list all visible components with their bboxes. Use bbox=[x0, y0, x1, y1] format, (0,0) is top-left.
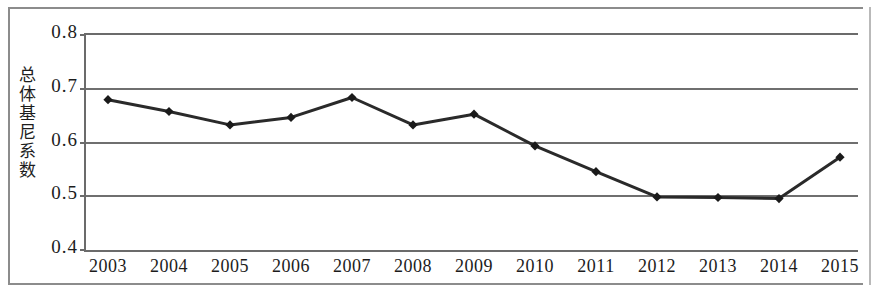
y-axis-tick-label: 0.8 bbox=[34, 21, 78, 43]
x-axis-tick-label: 2010 bbox=[516, 256, 554, 277]
chart-figure: 总体基尼系数 0.80.70.60.50.4 20032004200520062… bbox=[0, 0, 871, 297]
data-point-marker bbox=[103, 95, 112, 104]
y-axis-tick-labels: 0.80.70.60.50.4 bbox=[34, 33, 78, 248]
x-axis-tick-labels: 2003200420052006200720082009201020112012… bbox=[84, 256, 856, 286]
x-axis-tick-label: 2005 bbox=[211, 256, 249, 277]
x-axis-tick-label: 2008 bbox=[394, 256, 432, 277]
data-point-marker bbox=[225, 120, 234, 129]
x-axis-tick-label: 2012 bbox=[638, 256, 676, 277]
data-point-marker bbox=[713, 193, 722, 202]
y-axis-tick-mark bbox=[80, 249, 86, 251]
x-axis-tick-label: 2011 bbox=[577, 256, 614, 277]
y-axis-tick-label: 0.5 bbox=[34, 182, 78, 204]
x-axis-tick-label: 2003 bbox=[89, 256, 127, 277]
x-axis-tick-label: 2009 bbox=[455, 256, 493, 277]
line-series-layer bbox=[84, 33, 856, 248]
data-point-marker bbox=[408, 120, 417, 129]
data-point-marker bbox=[347, 93, 356, 102]
data-point-marker bbox=[591, 167, 600, 176]
x-axis-tick-label: 2013 bbox=[699, 256, 737, 277]
x-axis-tick-label: 2006 bbox=[272, 256, 310, 277]
x-axis-tick-label: 2007 bbox=[333, 256, 371, 277]
data-point-marker bbox=[652, 192, 661, 201]
x-axis-tick-label: 2014 bbox=[760, 256, 798, 277]
y-axis-tick-label: 0.7 bbox=[34, 75, 78, 97]
data-point-marker bbox=[164, 107, 173, 116]
data-point-marker bbox=[286, 113, 295, 122]
y-axis-tick-label: 0.4 bbox=[34, 236, 78, 258]
x-axis-tick-label: 2004 bbox=[150, 256, 188, 277]
y-axis-tick-label: 0.6 bbox=[34, 129, 78, 151]
x-axis-tick-label: 2015 bbox=[821, 256, 859, 277]
